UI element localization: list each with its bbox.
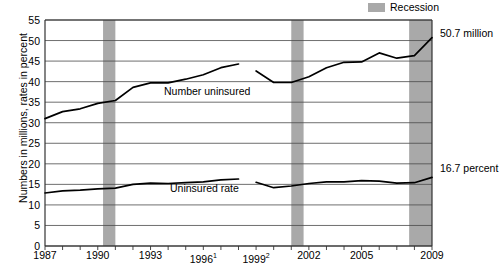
series-line [256, 177, 432, 187]
series-label-number-uninsured: Number uninsured [164, 86, 250, 97]
plot-canvas [0, 0, 504, 269]
chart-root: Recession Numbers in millions, rates in … [0, 0, 504, 269]
recession-band [409, 20, 432, 246]
annotation-rate-end: 16.7 percent [440, 163, 498, 174]
series-line [256, 38, 432, 83]
series-label-uninsured-rate: Uninsured rate [170, 183, 239, 194]
annotation-number-end: 50.7 million [440, 28, 493, 39]
recession-band [291, 20, 303, 246]
recession-band [103, 20, 115, 246]
